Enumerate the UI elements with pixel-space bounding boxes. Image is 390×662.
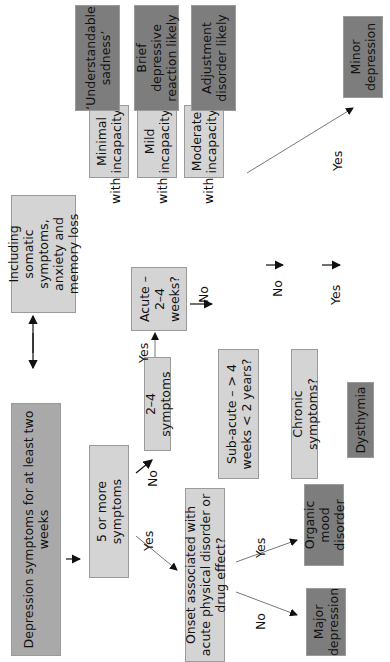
node-dysthymia: Dysthymia xyxy=(347,382,374,458)
node-understandable-sadness: ‘Understandable sadness’ xyxy=(75,5,120,111)
label-no-major: No xyxy=(253,613,268,630)
node-minimal-incapacity: Minimal incapacity xyxy=(89,105,129,178)
node-major-depression: Major depression xyxy=(306,588,346,656)
label-no-acute: No xyxy=(196,286,211,303)
node-5-or-more-symptoms: 5 or more symptoms xyxy=(89,445,129,578)
label-yes-acute: Yes xyxy=(136,343,151,363)
label-yes-minor: Yes xyxy=(330,151,345,171)
label-yes-chronic: Yes xyxy=(328,285,343,305)
node-mild-incapacity: Mild incapacity xyxy=(137,105,177,178)
node-subacute: Sub-acute – > 4 weeks < 2 years? xyxy=(218,349,259,479)
label-yes-organic: Yes xyxy=(253,538,268,558)
label-yes-5plus: Yes xyxy=(141,531,156,551)
node-chronic-symptoms: Chronic symptoms? xyxy=(291,349,318,479)
label-with-2: with xyxy=(155,177,170,204)
label-no-5plus: No xyxy=(145,470,160,487)
node-adjustment-disorder: Adjustment disorder likely xyxy=(191,5,236,111)
node-depression-symptoms: Depression symptoms for at least two wee… xyxy=(11,403,61,656)
label-with-1: with xyxy=(108,177,123,204)
label-with-3: with xyxy=(201,177,216,204)
node-including-somatic: Including somatic symptoms, anxiety and … xyxy=(11,195,76,313)
node-brief-depressive-reaction: Brief depressive reaction likely xyxy=(134,5,179,111)
node-moderate-incapacity: Moderate incapacity xyxy=(184,105,224,178)
label-no-subacute: No xyxy=(270,280,285,297)
node-onset: Onset associated with acute physical dis… xyxy=(185,488,225,662)
node-2-4-symptoms: 2–4 symptoms xyxy=(144,357,171,451)
node-minor-depression: Minor depression xyxy=(343,16,383,98)
node-acute: Acute – 2–4 weeks? xyxy=(131,267,187,331)
node-organic-mood-disorder: Organic mood disorder xyxy=(304,484,344,566)
